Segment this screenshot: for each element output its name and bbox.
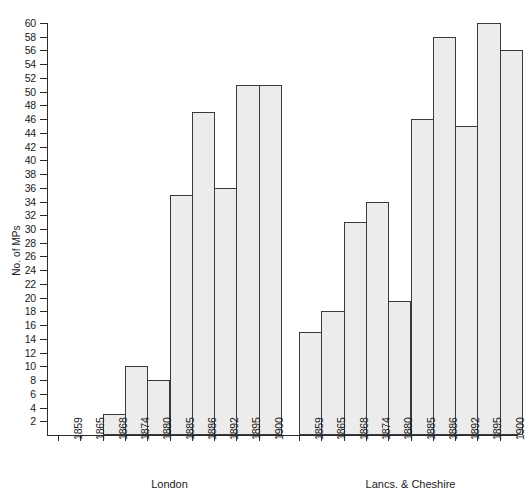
x-axis-tick-label: 1868	[359, 417, 370, 440]
x-axis-tick	[477, 436, 478, 441]
y-axis-tick-label: 16	[0, 320, 36, 330]
y-axis-tick	[40, 160, 48, 161]
y-axis-tick	[40, 380, 48, 381]
y-axis-tick	[40, 256, 48, 257]
y-axis-tick	[40, 339, 48, 340]
x-axis-tick-label: 1900	[274, 417, 285, 440]
x-axis-tick	[455, 436, 456, 441]
y-axis-tick	[40, 64, 48, 65]
y-axis-tick-label: 28	[0, 238, 36, 248]
y-axis-tick-label: 52	[0, 73, 36, 83]
y-axis-tick-label: 2	[0, 416, 36, 426]
x-axis-tick-label: 1880	[162, 417, 173, 440]
y-axis-tick-label: 32	[0, 210, 36, 220]
y-axis-tick-label: 14	[0, 334, 36, 344]
x-axis-tick	[299, 436, 300, 441]
bar	[236, 85, 259, 435]
y-axis-tick-label: 46	[0, 114, 36, 124]
y-axis-tick-label: 42	[0, 142, 36, 152]
y-axis-tick-label: 30	[0, 224, 36, 234]
y-axis-tick-label: 36	[0, 183, 36, 193]
x-axis-tick	[259, 436, 260, 441]
bar	[366, 202, 389, 435]
x-axis-tick	[433, 436, 434, 441]
y-axis-tick-label: 10	[0, 361, 36, 371]
bar-chart: No. of MPs 24681012141618202224262830323…	[0, 0, 525, 495]
bar	[170, 195, 193, 435]
y-axis-tick-label: 18	[0, 306, 36, 316]
group-label: London	[58, 478, 281, 490]
y-axis-tick	[40, 421, 48, 422]
bar	[477, 23, 500, 435]
bar	[259, 85, 282, 435]
y-axis-tick-label: 56	[0, 45, 36, 55]
x-axis-tick-label: 1885	[185, 417, 196, 440]
x-axis-tick	[125, 436, 126, 441]
y-axis-tick-label: 20	[0, 293, 36, 303]
x-axis-tick	[344, 436, 345, 441]
x-axis-tick	[321, 436, 322, 441]
y-axis-tick	[40, 133, 48, 134]
x-axis-tick-label: 1886	[448, 417, 459, 440]
x-axis-tick	[170, 436, 171, 441]
y-axis-tick	[40, 408, 48, 409]
x-axis-tick	[80, 436, 81, 441]
y-axis-tick	[40, 78, 48, 79]
y-axis-tick	[40, 37, 48, 38]
y-axis-tick	[40, 202, 48, 203]
y-axis-tick-label: 34	[0, 197, 36, 207]
x-axis-tick-label: 1859	[73, 417, 84, 440]
y-axis-tick-label: 40	[0, 155, 36, 165]
x-axis-tick-label: 1880	[403, 417, 414, 440]
x-axis-tick	[103, 436, 104, 441]
x-axis-tick	[147, 436, 148, 441]
y-axis-tick	[40, 50, 48, 51]
bar	[344, 222, 367, 435]
y-axis-tick-label: 22	[0, 279, 36, 289]
x-axis-tick	[214, 436, 215, 441]
y-axis-tick	[40, 325, 48, 326]
x-axis-tick-label: 1859	[314, 417, 325, 440]
x-axis-tick-label: 1895	[492, 417, 503, 440]
y-axis-tick-label: 26	[0, 251, 36, 261]
y-axis-tick	[40, 229, 48, 230]
y-axis-tick	[40, 311, 48, 312]
y-axis-tick-label: 4	[0, 403, 36, 413]
x-axis-tick-label: 1865	[336, 417, 347, 440]
plot-area	[48, 23, 518, 435]
bar	[500, 50, 523, 435]
x-axis-tick-label: 1885	[426, 417, 437, 440]
y-axis-tick	[40, 92, 48, 93]
x-axis-tick	[366, 436, 367, 441]
x-axis-tick-label: 1892	[229, 417, 240, 440]
bar	[192, 112, 215, 435]
x-axis-tick	[58, 436, 59, 441]
bar	[411, 119, 434, 435]
y-axis-tick	[40, 243, 48, 244]
y-axis-tick-label: 58	[0, 32, 36, 42]
group-label: Lancs. & Cheshire	[299, 478, 522, 490]
y-axis-tick-label: 48	[0, 100, 36, 110]
y-axis-tick-label: 8	[0, 375, 36, 385]
bar	[388, 301, 411, 435]
y-axis-tick	[40, 270, 48, 271]
y-axis-tick-label: 6	[0, 389, 36, 399]
x-axis-tick-label: 1874	[381, 417, 392, 440]
x-axis-tick-label: 1895	[251, 417, 262, 440]
y-axis-tick-label: 50	[0, 87, 36, 97]
y-axis-tick-label: 24	[0, 265, 36, 275]
bar	[433, 37, 456, 435]
x-axis-tick-label: 1865	[95, 417, 106, 440]
bar	[214, 188, 237, 435]
y-axis-tick-label: 38	[0, 169, 36, 179]
x-axis-tick	[192, 436, 193, 441]
y-axis-tick-label: 60	[0, 18, 36, 28]
y-axis-tick	[40, 366, 48, 367]
x-axis-tick	[388, 436, 389, 441]
y-axis-tick	[40, 147, 48, 148]
y-axis-tick	[40, 394, 48, 395]
x-axis-tick-label: 1886	[207, 417, 218, 440]
y-axis-tick	[40, 215, 48, 216]
x-axis-tick-label: 1900	[515, 417, 525, 440]
y-axis-tick-label: 54	[0, 59, 36, 69]
